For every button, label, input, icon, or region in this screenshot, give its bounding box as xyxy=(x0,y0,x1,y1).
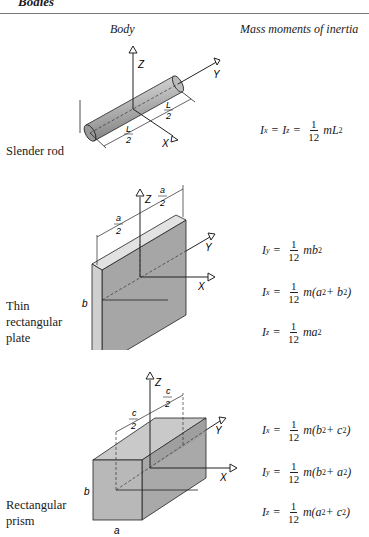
column-header-body: Body xyxy=(110,22,135,37)
formula-prism-ix: Ix = 112 m(b2 + c2 ) xyxy=(262,418,350,443)
y-axis-label: Y xyxy=(213,69,221,80)
dim-l-half-2-num: L xyxy=(166,100,171,110)
formula-plate-ix: Ix = 112 m(a2 + b2 ) xyxy=(262,280,351,305)
formula-rod-ix-iz: Ix = Iz = 112 mL2 xyxy=(260,118,343,143)
x-axis-label: X xyxy=(197,281,205,292)
z-axis-label: Z xyxy=(137,59,145,70)
svg-text:2: 2 xyxy=(159,198,165,208)
dim-l-half-1-num: L xyxy=(126,124,131,134)
section-title: Bodies xyxy=(18,0,54,10)
thin-plate-diagram: Z Y X b a 2 a 2 xyxy=(80,175,280,350)
svg-text:2: 2 xyxy=(130,421,136,431)
svg-text:2: 2 xyxy=(115,226,121,236)
rectangular-prism-diagram: Z Y X c 2 c 2 b a xyxy=(80,368,280,537)
x-axis-label: X xyxy=(219,472,227,483)
formula-plate-iy: Iy = 112 mb2 xyxy=(262,238,322,263)
svg-text:2: 2 xyxy=(164,399,170,409)
body-label-slender-rod: Slender rod xyxy=(6,143,64,159)
svg-text:a: a xyxy=(160,185,165,195)
b-dim-label: b xyxy=(82,298,88,309)
svg-text:c: c xyxy=(166,386,171,396)
formula-prism-iy: Iy = 112 m(b2 + a2 ) xyxy=(262,460,351,485)
z-axis-label: Z xyxy=(144,194,152,205)
svg-text:a: a xyxy=(116,213,121,223)
formula-plate-iz: Iz = 112 ma2 xyxy=(262,320,322,345)
y-axis-label: Y xyxy=(205,242,213,253)
svg-text:2: 2 xyxy=(165,111,171,121)
body-label-thin-rectangular-plate: Thin rectangular plate xyxy=(6,298,62,346)
y-axis-label: Y xyxy=(215,425,223,436)
svg-text:c: c xyxy=(132,408,137,418)
a-dim-label: a xyxy=(114,525,120,536)
column-header-inertia: Mass moments of inertia xyxy=(240,22,358,37)
header-rule xyxy=(0,13,369,14)
b-dim-label: b xyxy=(84,486,90,497)
svg-text:2: 2 xyxy=(125,135,131,145)
z-axis-label: Z xyxy=(154,377,162,388)
x-axis-label: X xyxy=(161,138,169,149)
body-label-rectangular-prism: Rectangular prism xyxy=(6,497,66,529)
formula-prism-iz: Iz = 112 m(a2 + c2 ) xyxy=(262,500,350,525)
slender-rod-diagram: Y Z X L 2 L 2 xyxy=(70,40,270,160)
